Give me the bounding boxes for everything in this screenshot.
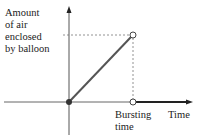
x-tick-label-bursting-time: Bursting time [115, 109, 151, 133]
burst-bottom-open-point [130, 99, 136, 105]
y-axis-label-line: by balloon [5, 43, 50, 55]
origin-filled-point [66, 99, 72, 105]
y-axis-label-line: Amount [5, 7, 50, 19]
y-axis-label-line: enclosed [5, 31, 50, 43]
x-axis-arrow-icon [186, 100, 193, 105]
y-axis-arrow-icon [67, 6, 72, 13]
y-axis-label-line: of air [5, 19, 50, 31]
x-tick-label-line: Bursting [115, 109, 151, 121]
burst-top-open-point [130, 32, 136, 38]
y-axis-label: Amount of air enclosed by balloon [5, 7, 50, 55]
x-axis-label: Time [168, 109, 190, 121]
inflating-line [69, 37, 131, 102]
x-tick-label-line: time [115, 121, 151, 133]
